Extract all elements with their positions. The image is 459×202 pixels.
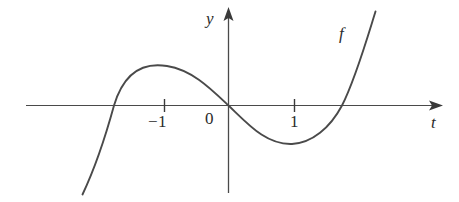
x-axis-label: t [431, 114, 436, 131]
y-axis [224, 7, 234, 193]
x-axis [26, 101, 443, 111]
y-axis-label: y [206, 10, 214, 27]
function-graph-figure: y t f 0 −1 1 [0, 0, 459, 202]
tick-label-negative-one: −1 [148, 113, 167, 130]
tick-label-positive-one: 1 [290, 113, 299, 130]
origin-label: 0 [205, 110, 214, 127]
plot-canvas [0, 0, 459, 202]
curve-label-f: f [339, 25, 344, 42]
